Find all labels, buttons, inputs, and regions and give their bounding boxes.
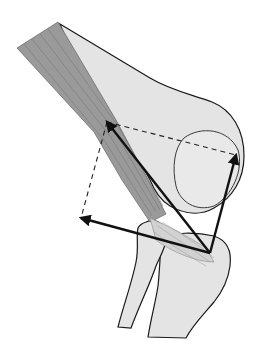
knee-diagram: [0, 0, 261, 353]
knee-diagram-svg: [0, 0, 261, 353]
